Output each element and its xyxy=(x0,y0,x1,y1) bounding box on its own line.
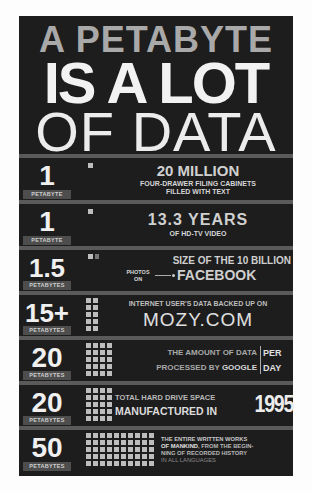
stat-detail-2: MANUFACTURED IN xyxy=(115,405,251,417)
stat-detail-1: THE ENTIRE WRITTEN WORKS xyxy=(161,436,291,443)
stat-detail-1: FOUR-DRAWER FILING CABINETS xyxy=(105,180,291,188)
stat-detail-2: OF MANKIND, FROM THE BEGIN- xyxy=(161,443,291,450)
stat-detail-2: FILLED WITH TEXT xyxy=(105,188,291,196)
stat-number: 50 xyxy=(23,434,71,462)
stat-headline: 13.3 YEARS xyxy=(105,211,291,228)
photos-label: PHOTOS xyxy=(123,269,153,275)
title-block: A PETABYTE IS A LOT OF DATA xyxy=(19,16,293,154)
stat-detail-4: IN ALL LANGUAGES xyxy=(161,457,291,464)
petabyte-squares xyxy=(88,254,100,259)
stat-row-5: 20 PETABYTES THE AMOUNT OF DATA PROCESSE… xyxy=(19,340,293,381)
mozy-label: MOZY.COM xyxy=(103,310,293,330)
petabyte-squares xyxy=(86,433,154,466)
facebook-label: FACEBOOK xyxy=(177,268,291,283)
stat-unit: PETABYTES xyxy=(23,371,71,380)
on-label: ON xyxy=(123,276,153,282)
arrow-dot-icon xyxy=(172,274,175,277)
arrow-line xyxy=(155,275,171,276)
stat-detail-1: TOTAL HARD DRIVE SPACE xyxy=(115,393,251,402)
petabyte-squares xyxy=(88,209,93,214)
petabyte-squares xyxy=(88,163,93,168)
google-text: GOOGLE xyxy=(222,363,257,372)
stat-row-6: 20 PETABYTES TOTAL HARD DRIVE SPACE MANU… xyxy=(19,385,293,426)
vertical-divider xyxy=(260,346,261,374)
stat-number: 1 xyxy=(23,208,71,236)
petabyte-squares xyxy=(86,388,112,421)
stat-row-4: 15+ PETABYTES INTERNET USER'S DATA BACKE… xyxy=(19,295,293,336)
stat-number: 15+ xyxy=(23,299,71,327)
stat-detail-1: INTERNET USER'S DATA BACKED UP ON xyxy=(103,300,293,308)
stat-headline: SIZE OF THE 10 BILLION xyxy=(115,255,291,266)
mankind-text: OF MANKIND xyxy=(161,443,198,449)
from-the-begin-text: , FROM THE BEGIN- xyxy=(198,443,253,449)
stat-number: 20 xyxy=(23,389,71,417)
processed-by-text: PROCESSED BY xyxy=(156,363,222,372)
stat-detail-1: OF HD-TV VIDEO xyxy=(105,230,291,238)
stat-number: 1 xyxy=(23,162,71,190)
stat-unit: PETABYTES xyxy=(23,281,71,290)
day-label: DAY xyxy=(263,363,291,373)
stat-unit: PETABYTES xyxy=(23,416,71,425)
stat-headline: 20 MILLION xyxy=(105,163,291,179)
stat-unit: PETABYTE xyxy=(23,190,71,199)
per-label: PER xyxy=(263,348,291,358)
stat-unit: PETABYTE xyxy=(23,236,71,245)
petabyte-squares xyxy=(86,298,98,331)
year-label: 1995 xyxy=(244,390,293,418)
stat-detail-1: THE AMOUNT OF DATA xyxy=(117,348,257,357)
stat-row-1: 1 PETABYTE 20 MILLION FOUR-DRAWER FILING… xyxy=(19,158,293,200)
infographic-poster: A PETABYTE IS A LOT OF DATA 1 PETABYTE 2… xyxy=(19,16,293,476)
stat-number: 20 xyxy=(23,344,71,372)
stat-row-3: 1.5 PETABYTES SIZE OF THE 10 BILLION PHO… xyxy=(19,250,293,291)
stat-number: 1.5 xyxy=(23,254,71,282)
stat-row-7: 50 PETABYTES THE ENTIRE WRITTEN WORKS OF… xyxy=(19,430,293,476)
stat-detail-3: NING OF RECORDED HISTORY xyxy=(161,450,291,457)
petabyte-squares xyxy=(86,343,112,376)
stat-unit: PETABYTES xyxy=(23,462,71,471)
title-line-3: OF DATA xyxy=(19,106,293,158)
stat-row-2: 1 PETABYTE 13.3 YEARS OF HD-TV VIDEO xyxy=(19,204,293,246)
stat-unit: PETABYTES xyxy=(23,326,71,335)
stat-detail-2: PROCESSED BY GOOGLE xyxy=(117,363,257,372)
